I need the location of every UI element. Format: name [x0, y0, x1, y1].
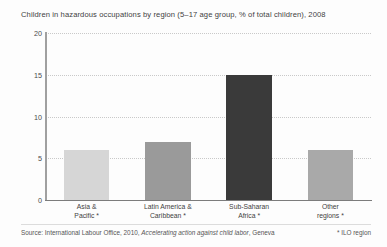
source-publication-title: Accelerating action against child labor — [141, 229, 248, 236]
y-tick-label-0: 0 — [20, 196, 42, 205]
category-label-1: Asia &Pacific * — [46, 203, 127, 220]
x-axis-line — [45, 200, 372, 201]
category-label-line: Other — [290, 203, 371, 212]
category-label-3: Sub-SaharanAfrica * — [209, 203, 290, 220]
bar-series — [46, 33, 371, 200]
source-note: Source: International Labour Office, 201… — [21, 229, 275, 236]
category-label-line: Caribbean * — [127, 212, 208, 221]
category-label-line: Asia & — [46, 203, 127, 212]
y-tick-label-5: 5 — [20, 154, 42, 163]
chart-figure: Children in hazardous occupations by reg… — [0, 0, 387, 247]
chart-title: Children in hazardous occupations by reg… — [21, 10, 371, 19]
y-tick-label-15: 15 — [20, 70, 42, 79]
bar-3 — [226, 75, 272, 200]
source-suffix: , Geneva — [249, 229, 275, 236]
y-axis-tick-labels: 05101520 — [18, 33, 42, 200]
y-tick-label-10: 10 — [20, 112, 42, 121]
y-tick-label-20: 20 — [20, 29, 42, 38]
category-label-line: Latin America & — [127, 203, 208, 212]
bar-1 — [64, 150, 110, 200]
ilo-region-footnote: * ILO region — [337, 229, 371, 236]
category-label-line: regions * — [290, 212, 371, 221]
footer-divider — [21, 224, 371, 225]
source-prefix: Source: International Labour Office, 201… — [21, 229, 141, 236]
category-label-line: Africa * — [209, 212, 290, 221]
bar-4 — [308, 150, 354, 200]
bar-2 — [145, 142, 191, 200]
category-label-line: Pacific * — [46, 212, 127, 221]
category-label-line: Sub-Saharan — [209, 203, 290, 212]
category-label-2: Latin America &Caribbean * — [127, 203, 208, 220]
category-label-4: Otherregions * — [290, 203, 371, 220]
x-axis-category-labels: Asia &Pacific *Latin America &Caribbean … — [46, 203, 371, 225]
